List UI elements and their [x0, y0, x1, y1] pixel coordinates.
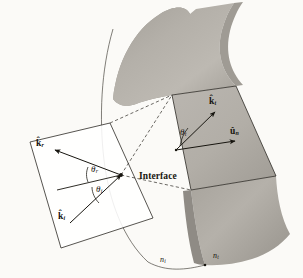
- theta-incident-subscript: i: [101, 188, 103, 194]
- theta-reflected-symbol: θ: [91, 164, 95, 174]
- k-incident-subscript: i: [63, 215, 65, 221]
- surface-lower-skirt: [183, 176, 290, 265]
- k-transmitted-label: k̂t: [209, 97, 216, 107]
- optics-refraction-diagram: [0, 0, 303, 278]
- theta-incident-symbol: θ: [96, 184, 100, 194]
- theta-reflected-label: θr: [91, 165, 98, 174]
- theta-incident-label: θi: [96, 185, 102, 194]
- n-incident-label: ni: [160, 256, 166, 265]
- tangent-origin-point: [175, 149, 177, 151]
- theta-transmitted-symbol: θ: [180, 127, 184, 137]
- surface-skirt-body: [191, 176, 290, 265]
- theta-transmitted-subscript: t: [185, 131, 187, 137]
- interface-label: Interface: [139, 172, 177, 182]
- k-incident-label: k̂i: [58, 212, 65, 222]
- k-transmitted-subscript: t: [214, 100, 216, 106]
- k-reflected-label: k̂r: [36, 139, 44, 149]
- dashed-edge-to-vertex: [121, 95, 172, 175]
- interface-point: [119, 173, 123, 177]
- n-transmitted-label: nt: [213, 252, 219, 261]
- u-normal-subscript: n: [235, 130, 238, 136]
- n-incident-subscript: i: [164, 258, 166, 264]
- plane-of-incidence: [30, 123, 153, 248]
- u-normal-label: ûn: [230, 127, 239, 137]
- plane-of-incidence-face: [30, 123, 153, 248]
- k-reflected-subscript: r: [41, 142, 43, 148]
- theta-reflected-subscript: r: [96, 168, 98, 174]
- n-transmitted-anchor: [204, 264, 207, 267]
- theta-transmitted-label: θt: [180, 128, 186, 137]
- n-transmitted-subscript: t: [217, 254, 219, 260]
